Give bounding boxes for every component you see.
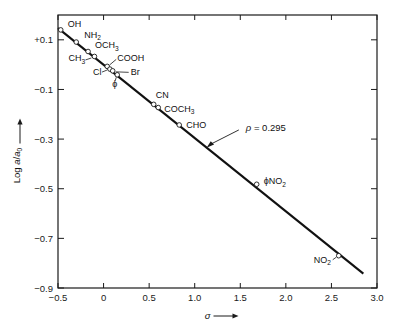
x-tick-label: 0 bbox=[101, 292, 106, 303]
x-tick-label: 3.0 bbox=[370, 292, 383, 303]
annotation-arrow-head bbox=[207, 141, 215, 148]
data-point-marker bbox=[156, 105, 161, 110]
x-axis-title-arrow-head bbox=[233, 313, 239, 318]
regression-line bbox=[58, 28, 363, 273]
data-point-label: CHO bbox=[186, 120, 206, 130]
label-leader bbox=[102, 70, 107, 72]
x-tick-label: 1.0 bbox=[188, 292, 201, 303]
y-axis-title-arrow-head bbox=[17, 119, 22, 125]
y-axis-tick-labels: +0.1−0.1−0.3−0.5−0.7−0.9 bbox=[34, 34, 53, 293]
y-tick-label: −0.3 bbox=[34, 134, 53, 145]
data-point-label: Br bbox=[131, 67, 140, 77]
data-point-label: COOH bbox=[117, 53, 144, 63]
x-tick-label: −0.5 bbox=[49, 292, 68, 303]
y-axis-title: Log a/a0 bbox=[11, 147, 23, 183]
chart-svg: −0.500.51.01.52.02.53.0 +0.1−0.1−0.3−0.5… bbox=[0, 0, 393, 329]
data-point-marker bbox=[86, 49, 91, 54]
y-tick-label: −0.9 bbox=[34, 283, 53, 294]
data-point-marker bbox=[115, 73, 120, 78]
label-leader bbox=[116, 72, 129, 73]
data-point-marker bbox=[74, 40, 79, 45]
x-tick-label: 0.5 bbox=[143, 292, 156, 303]
y-axis-ticks bbox=[58, 40, 377, 288]
x-axis-tick-labels: −0.500.51.01.52.02.53.0 bbox=[49, 292, 384, 303]
data-point-labels: OHNH2OCH3CH3COOHClBrϕCNCOCH3CHOϕNO2NO2 bbox=[68, 19, 336, 266]
data-point-label: ϕ bbox=[112, 79, 117, 89]
fit-line bbox=[58, 28, 363, 273]
y-tick-label: −0.1 bbox=[34, 84, 53, 95]
y-tick-label: +0.1 bbox=[34, 34, 53, 45]
label-leader bbox=[85, 58, 91, 60]
data-point-label: OH bbox=[68, 19, 82, 29]
x-tick-label: 2.5 bbox=[325, 292, 338, 303]
label-leader bbox=[333, 257, 337, 260]
x-tick-label: 1.5 bbox=[234, 292, 247, 303]
data-point-label: OCH3 bbox=[95, 40, 119, 51]
data-point-marker bbox=[151, 102, 156, 107]
data-point-label: Cl bbox=[93, 67, 102, 77]
x-axis-title: σ bbox=[205, 310, 212, 321]
annotation-arrow-shaft bbox=[210, 130, 239, 145]
data-point-marker bbox=[92, 54, 97, 59]
data-point-label: CH3 bbox=[68, 53, 85, 64]
rho-annotation: ρ = 0.295 bbox=[207, 122, 286, 148]
label-leader bbox=[110, 59, 117, 64]
y-tick-label: −0.5 bbox=[34, 183, 53, 194]
data-point-marker bbox=[177, 123, 182, 128]
x-tick-label: 2.0 bbox=[279, 292, 292, 303]
data-point-marker bbox=[254, 182, 259, 187]
data-point-marker bbox=[336, 253, 341, 258]
data-point-label: NO2 bbox=[314, 255, 332, 266]
data-point-label: ϕNO2 bbox=[264, 176, 287, 187]
data-point-label: CN bbox=[156, 90, 169, 100]
y-tick-label: −0.7 bbox=[34, 233, 53, 244]
rho-annotation-label: ρ = 0.295 bbox=[245, 122, 286, 133]
hammett-plot-figure: −0.500.51.01.52.02.53.0 +0.1−0.1−0.3−0.5… bbox=[0, 0, 393, 329]
data-point-marker bbox=[58, 28, 63, 33]
data-point-label: COCH3 bbox=[164, 104, 195, 115]
data-point-marker bbox=[110, 69, 115, 74]
